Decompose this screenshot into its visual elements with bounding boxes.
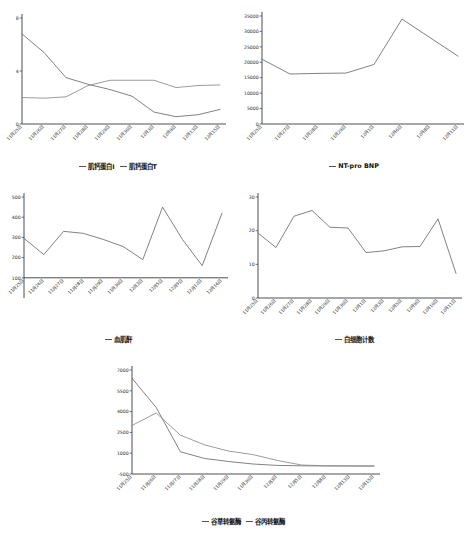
legend-swatch-icon	[120, 166, 127, 167]
x-axis-tick-label: 12月3日	[263, 474, 279, 490]
y-axis-tick-label: 30	[249, 195, 255, 200]
y-axis-tick-label: 5500	[117, 389, 129, 394]
data-series-line	[132, 413, 374, 466]
x-axis-tick-label: 11月26日	[28, 124, 46, 142]
x-axis-tick-label: 11月25日	[8, 278, 26, 296]
y-axis-tick-label: 500	[12, 195, 21, 200]
y-axis-tick-label: 2500	[117, 430, 129, 435]
x-axis-tick-label: 11月26日	[27, 278, 45, 296]
x-axis-tick-label: 12月15日	[358, 474, 376, 492]
x-axis-tick-label: 11月28日	[302, 124, 320, 142]
y-axis-tick-label: 400	[12, 215, 21, 220]
x-axis-tick-label: 12月11日	[440, 298, 458, 316]
legend-item-ast: 谷草转氨酶	[202, 517, 241, 526]
x-axis-tick-label: 12月3日	[370, 298, 386, 314]
y-axis-tick-label: 7000	[117, 368, 129, 373]
x-axis-tick-label: 12月8日	[416, 124, 432, 140]
chart-panel-creatinine: 10020030040050011月25日11月26日11月27日11月28日1…	[0, 183, 236, 355]
y-axis-tick-label: 200	[12, 255, 21, 260]
x-axis-tick-label: 12月12日	[186, 278, 204, 296]
chart-plot-troponin: 04811月25日11月26日11月27日11月28日11月29日11月30日1…	[0, 4, 236, 164]
chart-plot-creatinine: 10020030040050011月25日11月26日11月27日11月28日1…	[0, 183, 236, 338]
x-axis-tick-label: 11月25日	[116, 474, 134, 492]
chart-panel-troponin: 04811月25日11月26日11月27日11月28日11月29日11月30日1…	[0, 4, 236, 182]
x-axis-tick-label: 11月26日	[260, 298, 278, 316]
x-axis-tick-label: 11月25日	[242, 298, 260, 316]
x-axis-tick-label: 12月10日	[422, 298, 440, 316]
chart-plot-wbc: 010203011月25日11月26日11月27日11月28日11月29日11月…	[236, 183, 472, 338]
x-axis-tick-label: 12月1日	[352, 298, 368, 314]
y-axis-tick-label: 35000	[244, 14, 259, 19]
x-axis-tick-label: 11月30日	[116, 124, 134, 142]
legend-swatch-icon	[202, 521, 209, 522]
y-axis-tick-label: 30000	[244, 29, 259, 34]
x-axis-tick-label: 12月16日	[206, 278, 224, 296]
legend-swatch-icon	[79, 166, 86, 167]
x-axis-tick-label: 12月5日	[388, 298, 404, 314]
data-series-line	[22, 80, 220, 98]
x-axis-tick-label: 12月13日	[182, 124, 200, 142]
y-axis-tick-label: 20	[249, 228, 255, 233]
data-series-line	[262, 19, 458, 74]
x-axis-tick-label: 12月9日	[168, 278, 184, 294]
x-axis-tick-label: 11月27日	[278, 298, 296, 316]
nt-pro-bnp-line-chart: 0500010000150002000025000300003500011月25…	[236, 4, 472, 164]
chart-panel-wbc: 010203011月25日11月26日11月27日11月28日11月29日11月…	[236, 183, 472, 355]
legend-swatch-icon	[335, 339, 342, 340]
x-axis-tick-label: 12月9日	[406, 298, 422, 314]
data-series-line	[258, 210, 456, 273]
y-axis-tick-label: 1000	[117, 451, 129, 456]
chart-plot-nt-pro-bnp: 0500010000150002000025000300003500011月25…	[236, 4, 472, 164]
x-axis-tick-label: 11月27日	[50, 124, 68, 142]
x-axis-tick-label: 12月13日	[333, 474, 351, 492]
x-axis-tick-label: 12月9日	[162, 124, 178, 140]
x-axis-tick-label: 11月29日	[212, 474, 230, 492]
y-axis-tick-label: 15000	[244, 75, 259, 80]
x-axis-tick-label: 11月29日	[94, 124, 112, 142]
x-axis-tick-label: 12月3日	[128, 278, 144, 294]
x-axis-tick-label: 11月25日	[6, 124, 24, 142]
y-axis-tick-label: 300	[12, 235, 21, 240]
x-axis-tick-label: 11月29日	[330, 124, 348, 142]
x-axis-tick-label: 12月5日	[148, 278, 164, 294]
x-axis-tick-label: 11月28日	[67, 278, 85, 296]
y-axis-tick-label: 20000	[244, 60, 259, 65]
x-axis-tick-label: 12月1日	[360, 124, 376, 140]
legend-swatch-icon	[329, 166, 336, 167]
creatinine-line-chart: 10020030040050011月25日11月26日11月27日11月28日1…	[0, 183, 236, 338]
x-axis-tick-label: 12月15日	[204, 124, 222, 142]
chart-plot-transaminase: -5001000250040005500700011月25日11月26日11月2…	[98, 358, 388, 518]
y-axis-tick-label: 10000	[244, 91, 259, 96]
x-axis-tick-label: 11月28日	[72, 124, 90, 142]
x-axis-tick-label: 12月5日	[287, 474, 303, 490]
legend-swatch-icon	[246, 521, 253, 522]
wbc-line-chart: 010203011月25日11月26日11月27日11月28日11月29日11月…	[236, 183, 472, 338]
y-axis-tick-label: 8	[16, 16, 19, 21]
x-axis-tick-label: 11月27日	[47, 278, 65, 296]
x-axis-tick-label: 11月27日	[164, 474, 182, 492]
x-axis-tick-label: 11月25日	[246, 124, 264, 142]
legend-item-alt: 谷丙转氨酶	[246, 517, 285, 526]
y-axis-tick-label: 4000	[117, 409, 129, 414]
transaminase-line-chart: -5001000250040005500700011月25日11月26日11月2…	[98, 358, 388, 518]
legend-label: 谷丙转氨酶	[255, 517, 285, 526]
x-axis-tick-label: 11月29日	[314, 298, 332, 316]
medical-trend-charts-figure: 04811月25日11月26日11月27日11月28日11月29日11月30日1…	[0, 0, 472, 546]
y-axis-tick-label: 4	[16, 69, 19, 74]
x-axis-tick-label: 11月28日	[188, 474, 206, 492]
x-axis-tick-label: 11月28日	[296, 298, 314, 316]
x-axis-tick-label: 11月30日	[237, 474, 255, 492]
data-series-line	[132, 378, 374, 466]
chart-panel-nt-pro-bnp: 0500010000150002000025000300003500011月25…	[236, 4, 472, 182]
x-axis-tick-label: 11月30日	[107, 278, 125, 296]
legend-label: 谷草转氨酶	[211, 517, 241, 526]
x-axis-tick-label: 12月3日	[140, 124, 156, 140]
x-axis-tick-label: 12月8日	[311, 474, 327, 490]
troponin-line-chart: 04811月25日11月26日11月27日11月28日11月29日11月30日1…	[0, 4, 236, 164]
legend-transaminase: 谷草转氨酶 谷丙转氨酶	[98, 517, 388, 526]
data-series-line	[22, 34, 220, 117]
x-axis-tick-label: 12月6日	[388, 124, 404, 140]
data-series-line	[24, 207, 222, 266]
x-axis-tick-label: 11月27日	[274, 124, 292, 142]
y-axis-tick-label: 10	[249, 262, 255, 267]
